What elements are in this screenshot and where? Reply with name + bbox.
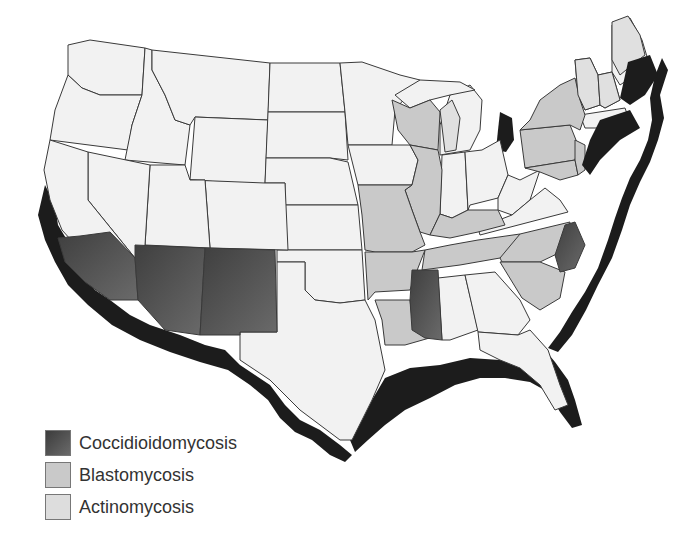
legend-item-coccidioidomycosis: Coccidioidomycosis (45, 427, 237, 459)
legend-label: Blastomycosis (79, 465, 194, 486)
legend-label: Coccidioidomycosis (79, 433, 237, 454)
legend-item-actinomycosis: Actinomycosis (45, 491, 237, 523)
legend-swatch-coccidioidomycosis (45, 430, 71, 456)
legend-swatch-blastomycosis (45, 462, 71, 488)
legend-swatch-actinomycosis (45, 494, 71, 520)
legend-item-blastomycosis: Blastomycosis (45, 459, 237, 491)
legend-label: Actinomycosis (79, 497, 194, 518)
legend: Coccidioidomycosis Blastomycosis Actinom… (45, 427, 237, 523)
